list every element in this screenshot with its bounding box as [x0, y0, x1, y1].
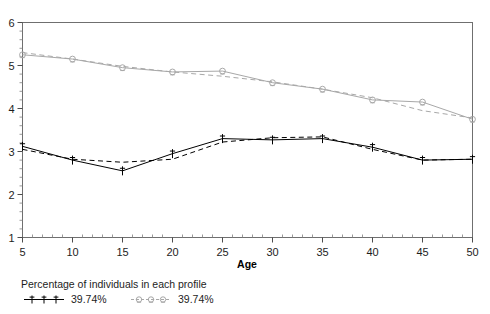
x-tick-label-35: 35 — [316, 246, 328, 258]
x-tick-label-5: 5 — [19, 246, 25, 258]
plot-frame — [23, 23, 473, 238]
legend-value: 39.74% — [178, 293, 214, 305]
y-tick-label-4: 4 — [8, 103, 14, 115]
x-tick-label-15: 15 — [116, 246, 128, 258]
x-tick-label-50: 50 — [466, 246, 478, 258]
legend-value: 39.74% — [71, 293, 107, 305]
legend-title: Percentage of individuals in each profil… — [21, 278, 207, 290]
legend-entry-1: 39.74% — [24, 293, 107, 305]
x-axis-title: Age — [237, 258, 257, 270]
series-line-1-predicted — [23, 137, 473, 162]
y-tick-label-3: 3 — [8, 146, 14, 158]
x-axis-tick-labels: 5101520253035404550 — [19, 246, 478, 258]
y-tick-label-2: 2 — [8, 189, 14, 201]
x-tick-label-40: 40 — [366, 246, 378, 258]
series-line-1 — [23, 139, 473, 171]
y-tick-label-6: 6 — [8, 17, 14, 29]
x-tick-label-45: 45 — [416, 246, 428, 258]
x-axis-major-ticks — [23, 238, 473, 243]
plot-border — [23, 23, 473, 238]
x-tick-label-20: 20 — [166, 246, 178, 258]
chart-svg: 123456 5101520253035404550 Age Percentag… — [0, 0, 490, 314]
x-tick-label-10: 10 — [66, 246, 78, 258]
legend-entry-2: 39.74% — [131, 293, 214, 305]
y-tick-label-1: 1 — [8, 232, 14, 244]
data-point-marker — [170, 149, 175, 158]
x-tick-label-25: 25 — [216, 246, 228, 258]
legend-entries: 39.74%39.74% — [24, 293, 214, 305]
x-tick-label-30: 30 — [266, 246, 278, 258]
y-axis-tick-labels: 123456 — [8, 17, 14, 244]
chart-figure-root: 123456 5101520253035404550 Age Percentag… — [0, 0, 490, 314]
series-line-2 — [23, 55, 473, 120]
chart-legend: Percentage of individuals in each profil… — [21, 278, 214, 305]
y-tick-label-5: 5 — [8, 60, 14, 72]
data-series-layer — [23, 53, 473, 171]
line-chart-figure: 123456 5101520253035404550 Age Percentag… — [0, 0, 490, 314]
